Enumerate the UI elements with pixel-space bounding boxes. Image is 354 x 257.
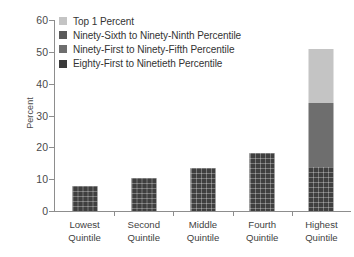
x-axis-category-label-line: Quintile <box>292 232 351 245</box>
x-axis-category-label-line: Quintile <box>55 232 114 245</box>
legend-swatch-icon <box>59 31 67 39</box>
x-axis-category-label: HighestQuintile <box>292 219 351 244</box>
y-axis-tick-label: 0 <box>42 206 48 217</box>
bar-segment[interactable] <box>190 168 215 211</box>
x-axis-category-label-line: Quintile <box>114 232 173 245</box>
x-axis-category-label-line: Quintile <box>173 232 232 245</box>
legend-item[interactable]: Eighty-First to Ninetieth Percentile <box>59 57 241 71</box>
legend-item[interactable]: Top 1 Percent <box>59 14 241 28</box>
y-axis-tick-label: 50 <box>36 47 48 58</box>
y-axis-tick-label: 20 <box>36 142 48 153</box>
legend-item-label: Ninety-Sixth to Ninety-Ninth Percentile <box>73 30 241 41</box>
y-axis-tick-label: 10 <box>36 174 48 185</box>
legend-swatch-icon <box>59 60 67 68</box>
bar-segment[interactable] <box>309 49 334 103</box>
chart-legend: Top 1 PercentNinety-Sixth to Ninety-Nint… <box>59 14 241 71</box>
bar-segment[interactable] <box>72 186 97 211</box>
bar-group[interactable] <box>233 20 292 211</box>
legend-item[interactable]: Ninety-Sixth to Ninety-Ninth Percentile <box>59 28 241 42</box>
x-axis-category-label: FourthQuintile <box>233 219 292 244</box>
bar-group[interactable] <box>292 20 351 211</box>
x-axis-category-label-line: Lowest <box>55 219 114 232</box>
bar-segment[interactable] <box>309 103 334 167</box>
x-axis-category-label: LowestQuintile <box>55 219 114 244</box>
x-axis-category-label-line: Fourth <box>233 219 292 232</box>
x-axis-tick-mark <box>114 211 115 216</box>
bar-segment[interactable] <box>131 178 156 211</box>
stacked-bar[interactable] <box>131 178 156 211</box>
x-axis-category-label-line: Quintile <box>233 232 292 245</box>
x-axis-category-label-line: Middle <box>173 219 232 232</box>
x-axis-line <box>54 211 351 212</box>
legend-swatch-icon <box>59 17 67 25</box>
x-axis-category-label: MiddleQuintile <box>173 219 232 244</box>
x-axis-category-label-line: Second <box>114 219 173 232</box>
y-axis-tick-label: 30 <box>36 110 48 121</box>
x-axis-category-label: SecondQuintile <box>114 219 173 244</box>
bar-segment[interactable] <box>309 167 334 211</box>
legend-item-label: Ninety-First to Ninety-Fifth Percentile <box>73 44 234 55</box>
x-axis-tick-mark <box>233 211 234 216</box>
x-axis-tick-mark <box>292 211 293 216</box>
x-axis-tick-mark <box>173 211 174 216</box>
stacked-bar[interactable] <box>190 168 215 211</box>
x-axis-category-label-line: Highest <box>292 219 351 232</box>
legend-item-label: Top 1 Percent <box>73 16 134 27</box>
legend-item[interactable]: Ninety-First to Ninety-Fifth Percentile <box>59 42 241 56</box>
x-axis-category-labels: LowestQuintileSecondQuintileMiddleQuinti… <box>55 219 351 253</box>
legend-item-label: Eighty-First to Ninetieth Percentile <box>73 58 222 69</box>
y-axis-tick-label: 40 <box>36 78 48 89</box>
stacked-bar[interactable] <box>72 186 97 211</box>
legend-swatch-icon <box>59 45 67 53</box>
percentile-share-bar-chart: Percent 6050403020100 LowestQuintileSeco… <box>0 0 354 257</box>
y-axis-tick-labels: 6050403020100 <box>18 0 48 257</box>
stacked-bar[interactable] <box>250 153 275 211</box>
bar-segment[interactable] <box>250 153 275 211</box>
y-axis-tick-label: 60 <box>36 15 48 26</box>
stacked-bar[interactable] <box>309 49 334 211</box>
